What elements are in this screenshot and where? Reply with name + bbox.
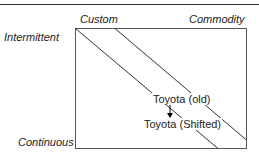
diagram-canvas bbox=[0, 0, 259, 155]
matrix-box bbox=[76, 29, 247, 149]
label-toyota-old: Toyota (old) bbox=[152, 93, 211, 105]
label-toyota-shifted: Toyota (Shifted) bbox=[143, 118, 222, 130]
diagonal-lower bbox=[76, 29, 219, 149]
